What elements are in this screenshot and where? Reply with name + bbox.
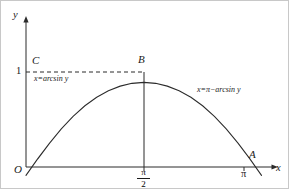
- left-branch-equation-label: x=arcsin y: [34, 75, 68, 83]
- fraction-denominator: 2: [137, 179, 150, 189]
- y-axis-label: y: [13, 10, 18, 21]
- x-tick-label-pi: π: [241, 169, 246, 180]
- right-branch-equation-label: x=π−arcsin y: [197, 86, 241, 94]
- point-label-origin: O: [14, 164, 22, 175]
- y-axis: [23, 16, 28, 167]
- x-axis-label: x: [276, 163, 281, 174]
- point-label-c: C: [32, 55, 39, 66]
- y-tick-label-one: 1: [16, 66, 21, 77]
- x-tick-label-pi-over-two: π 2: [137, 168, 150, 189]
- math-figure: y x O C B A 1 π π 2 x=arcsin y x=π−arcsi…: [0, 0, 289, 189]
- axis-ticks: [144, 167, 244, 171]
- point-label-b: B: [138, 54, 145, 65]
- point-label-a: A: [249, 149, 256, 160]
- plot-canvas: [1, 1, 289, 189]
- fraction-numerator: π: [137, 168, 150, 178]
